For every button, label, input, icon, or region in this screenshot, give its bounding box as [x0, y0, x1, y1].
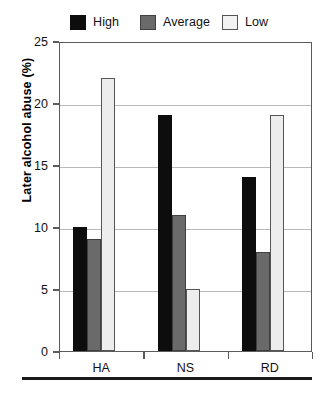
- bar-rd-low: [270, 115, 284, 351]
- bottom-rule: [22, 377, 312, 380]
- bar-chart-figure: High Average Low Later alcohol abuse (%)…: [0, 0, 325, 395]
- legend-label-high: High: [93, 15, 119, 29]
- y-axis-title: Later alcohol abuse (%): [20, 40, 34, 220]
- y-tick-label: 25: [14, 35, 48, 49]
- x-tick-mark: [228, 352, 229, 359]
- x-tick-mark: [59, 352, 60, 359]
- x-tick-mark: [312, 352, 313, 359]
- legend-swatch-high-icon: [70, 15, 86, 30]
- plot-area: [59, 42, 312, 352]
- bar-ha-average: [87, 239, 101, 351]
- y-tick-label: 15: [14, 159, 48, 173]
- x-tick-label-ns: NS: [156, 361, 216, 375]
- legend-label-average: Average: [163, 15, 210, 29]
- chart-legend: High Average Low: [0, 10, 325, 36]
- bar-ns-high: [158, 115, 172, 351]
- y-tick-label: 10: [14, 221, 48, 235]
- legend-swatch-average-icon: [140, 15, 156, 30]
- y-tick-label: 20: [14, 97, 48, 111]
- legend-item-average: Average: [140, 10, 210, 34]
- y-tick-label: 5: [14, 283, 48, 297]
- legend-item-low: Low: [222, 10, 268, 34]
- bar-ns-low: [186, 289, 200, 351]
- bar-ha-low: [101, 78, 115, 351]
- legend-label-low: Low: [245, 15, 268, 29]
- bar-rd-average: [256, 252, 270, 351]
- bars-layer: [60, 43, 311, 351]
- y-tick-label: 0: [14, 345, 48, 359]
- bar-rd-high: [242, 177, 256, 351]
- legend-swatch-low-icon: [222, 15, 238, 30]
- x-tick-label-ha: HA: [71, 361, 131, 375]
- bar-ha-high: [73, 227, 87, 351]
- bar-ns-average: [172, 215, 186, 351]
- x-tick-mark: [143, 352, 144, 359]
- x-tick-label-rd: RD: [240, 361, 300, 375]
- legend-item-high: High: [70, 10, 119, 34]
